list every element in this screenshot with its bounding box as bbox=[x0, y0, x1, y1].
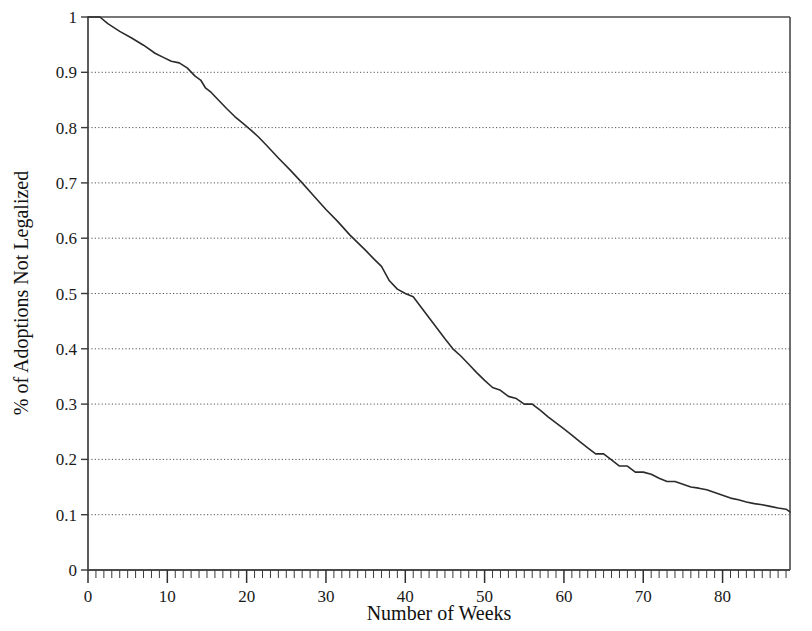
x-tick-label: 10 bbox=[159, 587, 176, 606]
y-axis-tick-labels: 00.10.20.30.40.50.60.70.80.91 bbox=[56, 8, 78, 580]
x-axis-minor-ticks bbox=[96, 570, 786, 578]
y-tick-label: 0.3 bbox=[56, 395, 77, 414]
y-tick-label: 0.6 bbox=[56, 229, 77, 248]
x-tick-label: 0 bbox=[84, 587, 93, 606]
y-axis-ticks bbox=[81, 17, 88, 570]
x-tick-label: 30 bbox=[317, 587, 334, 606]
y-tick-label: 0.5 bbox=[56, 285, 77, 304]
y-axis-title: % of Adoptions Not Legalized bbox=[10, 171, 33, 415]
y-tick-label: 0.7 bbox=[56, 174, 78, 193]
x-axis-title: Number of Weeks bbox=[367, 602, 512, 624]
x-tick-label: 80 bbox=[714, 587, 731, 606]
y-tick-label: 0.2 bbox=[56, 450, 77, 469]
y-tick-label: 1 bbox=[69, 8, 78, 27]
y-tick-label: 0.9 bbox=[56, 63, 77, 82]
chart-page: 00.10.20.30.40.50.60.70.80.91 0102030405… bbox=[0, 0, 812, 631]
y-tick-label: 0.8 bbox=[56, 119, 77, 138]
x-tick-label: 60 bbox=[555, 587, 572, 606]
survival-curve-chart: 00.10.20.30.40.50.60.70.80.91 0102030405… bbox=[0, 0, 812, 631]
x-tick-label: 20 bbox=[238, 587, 255, 606]
y-tick-label: 0.4 bbox=[56, 340, 78, 359]
x-tick-label: 70 bbox=[635, 587, 652, 606]
y-tick-label: 0 bbox=[69, 561, 78, 580]
y-tick-label: 0.1 bbox=[56, 506, 77, 525]
